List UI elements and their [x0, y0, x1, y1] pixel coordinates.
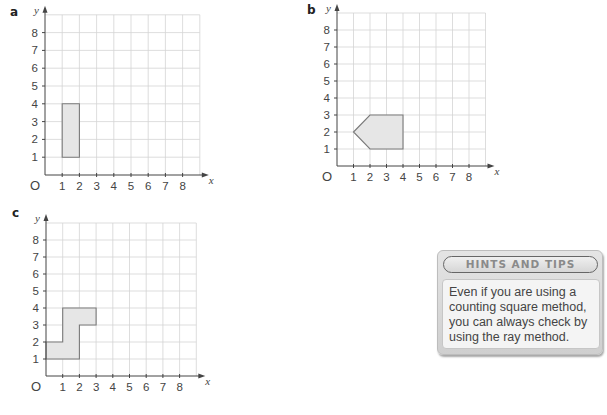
x-tick-label: 5	[126, 381, 132, 393]
x-tick-label: 1	[59, 381, 65, 393]
x-tick-label: 2	[76, 381, 82, 393]
x-tick-label: 4	[110, 381, 117, 393]
x-axis-arrow-icon	[198, 374, 205, 379]
x-tick-label: 6	[143, 381, 149, 393]
hints-title: HINTS AND TIPS	[443, 256, 598, 273]
x-axis-name: x	[204, 375, 210, 387]
y-tick-label: 1	[33, 353, 39, 365]
y-axis-name: y	[34, 212, 40, 224]
x-tick-label: 3	[93, 381, 99, 393]
origin-label: O	[31, 379, 41, 394]
y-axis-arrow-icon	[44, 214, 49, 221]
x-tick-label: 7	[160, 381, 166, 393]
y-tick-label: 3	[33, 319, 39, 331]
y-tick-label: 8	[33, 234, 39, 246]
y-tick-label: 7	[33, 251, 39, 263]
y-tick-label: 5	[33, 285, 39, 297]
hints-and-tips-box: HINTS AND TIPS Even if you are using a c…	[437, 250, 603, 355]
y-tick-label: 4	[33, 302, 40, 314]
y-tick-label: 6	[33, 268, 39, 280]
y-tick-label: 2	[33, 336, 39, 348]
shaded-shape	[46, 308, 96, 359]
hints-body: Even if you are using a counting square …	[442, 279, 600, 349]
x-tick-label: 8	[176, 381, 182, 393]
